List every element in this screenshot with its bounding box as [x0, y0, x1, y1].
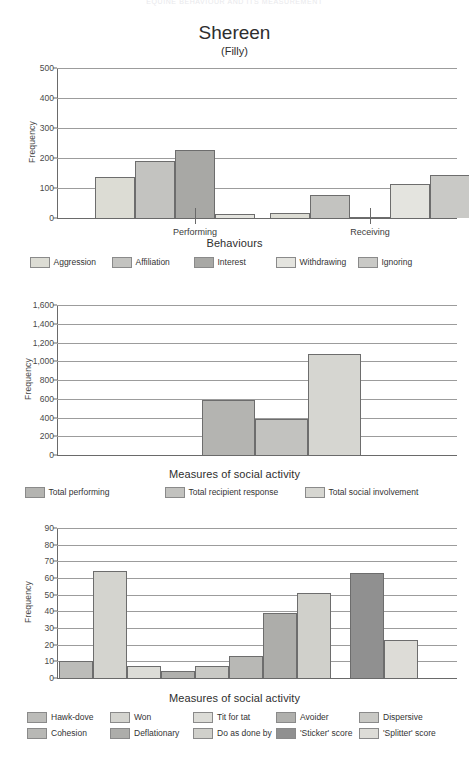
y-tick-label: 20: [45, 640, 54, 649]
bar-won: [93, 571, 127, 678]
y-tick-label: 60: [45, 574, 54, 583]
legend-label: Ignoring: [382, 257, 413, 268]
legend-row: AggressionAffiliationInterestWithdrawing…: [30, 257, 440, 268]
legend-swatch-icon: [359, 712, 379, 723]
y-tick-label: 800: [40, 376, 54, 385]
legend-swatch-icon: [110, 728, 130, 739]
bar-tit-for-tat: [127, 666, 161, 678]
legend-label: Total performing: [49, 487, 110, 498]
title-sub: (Filly): [0, 44, 469, 58]
y-tick-label: 400: [40, 94, 54, 103]
axis-baseline: [57, 678, 457, 679]
legend-label: Tit for tat: [217, 712, 250, 723]
gridline: [57, 343, 457, 344]
legend-item: Tit for tat: [193, 712, 276, 723]
bar-deflationary: [263, 613, 297, 678]
legend-item: Aggression: [30, 257, 112, 268]
bar-dispersive: [195, 666, 229, 678]
legend-swatch-icon: [165, 487, 185, 498]
legend-swatch-icon: [110, 712, 130, 723]
bar-hawk-dove: [59, 661, 93, 678]
legend-item: Do as done by: [193, 728, 276, 739]
y-tick-label: 70: [45, 557, 54, 566]
legend-swatch-icon: [305, 487, 325, 498]
y-tick-label: 0: [49, 214, 54, 223]
x-axis-label-1: Behaviours: [0, 237, 469, 249]
y-axis-label-2: Frequency: [23, 349, 33, 409]
bar-total-performing: [202, 400, 255, 455]
y-tick-label: 0: [49, 674, 54, 683]
x-category-label: Performing: [173, 227, 217, 237]
bar-sticker-score: [350, 573, 384, 678]
x-axis-label-3: Measures of social activity: [0, 692, 469, 704]
gridline: [57, 98, 457, 99]
legend-swatch-icon: [25, 487, 45, 498]
legend-label: Hawk-dove: [51, 712, 94, 723]
legend-item: Affiliation: [112, 257, 194, 268]
legend-label: Total recipient response: [189, 487, 279, 498]
y-axis-line: [57, 528, 58, 678]
legend-row: Total performingTotal recipient response…: [25, 487, 445, 498]
y-tick-label: 200: [40, 432, 54, 441]
legend-label: Withdrawing: [300, 257, 347, 268]
running-header: EQUINE BEHAVIOUR AND ITS MEASUREMENT: [0, 0, 469, 6]
gridline: [57, 305, 457, 306]
bar-aggression-receiving: [270, 213, 310, 218]
y-axis-label-1: Frequency: [27, 112, 37, 172]
y-tick-label: 80: [45, 540, 54, 549]
legend-item: Withdrawing: [276, 257, 358, 268]
legend-label: Cohesion: [51, 728, 87, 739]
x-category-label: Receiving: [350, 227, 390, 237]
legend-behaviours: AggressionAffiliationInterestWithdrawing…: [0, 257, 469, 268]
gridline: [57, 361, 457, 362]
legend-item: 'Splitter' score: [359, 728, 442, 739]
legend-label: Deflationary: [134, 728, 179, 739]
bar-splitter-score: [384, 640, 418, 678]
legend-swatch-icon: [27, 728, 47, 739]
bar-total-social-involvement: [308, 354, 361, 455]
legend-label: Dispersive: [383, 712, 423, 723]
y-tick-label: 30: [45, 624, 54, 633]
y-tick-label: 10: [45, 657, 54, 666]
gridline: [57, 68, 457, 69]
legend-label: Total social involvement: [329, 487, 419, 498]
bar-cohesion: [229, 656, 263, 678]
y-tick-label: 1,000: [33, 357, 54, 366]
y-axis-line: [57, 68, 58, 218]
axis-baseline: [57, 455, 457, 456]
legend-item: Interest: [194, 257, 276, 268]
legend-swatch-icon: [27, 712, 47, 723]
legend-swatch-icon: [193, 728, 213, 739]
page-title: Shereen (Filly): [0, 22, 469, 58]
y-tick-label: 0: [49, 451, 54, 460]
bar-withdrawing-receiving: [390, 184, 430, 218]
legend-swatch-icon: [276, 728, 296, 739]
legend-item: Dispersive: [359, 712, 442, 723]
legend-swatch-icon: [359, 728, 379, 739]
gridline: [57, 380, 457, 381]
y-tick-label: 400: [40, 413, 54, 422]
plot-area-social-totals: 02004006008001,0001,2001,4001,600: [57, 305, 457, 455]
legend-item: Total social involvement: [305, 487, 445, 498]
plot-area-social-measures: 0102030405060708090: [57, 528, 457, 678]
y-tick-label: 90: [45, 524, 54, 533]
axis-baseline: [57, 218, 457, 219]
legend-row: CohesionDeflationaryDo as done by'Sticke…: [27, 728, 442, 739]
y-tick-label: 300: [40, 124, 54, 133]
y-tick-label: 1,400: [33, 319, 54, 328]
y-tick-label: 500: [40, 64, 54, 73]
legend-item: Won: [110, 712, 193, 723]
y-tick-label: 200: [40, 154, 54, 163]
y-tick-label: 100: [40, 184, 54, 193]
y-tick-label: 40: [45, 607, 54, 616]
legend-label: Won: [134, 712, 151, 723]
gridline: [57, 545, 457, 546]
legend-label: 'Splitter' score: [383, 728, 436, 739]
legend-swatch-icon: [194, 257, 214, 268]
legend-label: Affiliation: [136, 257, 170, 268]
bar-avoider: [161, 671, 195, 679]
x-category-tick: [195, 208, 196, 224]
bar-withdrawing-performing: [215, 214, 255, 218]
legend-social-totals: Total performingTotal recipient response…: [0, 487, 469, 498]
gridline: [57, 324, 457, 325]
